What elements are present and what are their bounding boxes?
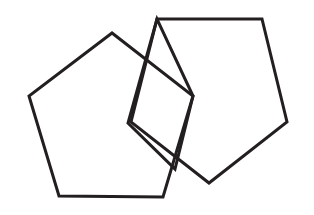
figure-background [0,0,314,215]
figure-canvas [0,0,314,215]
polygon-figure [0,0,314,215]
